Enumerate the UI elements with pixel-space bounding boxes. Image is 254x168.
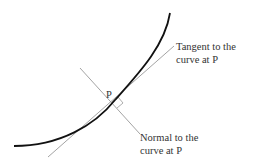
normal-label-line2: curve at P (140, 145, 182, 156)
tangent-label-line2: curve at P (176, 54, 218, 65)
normal-label-line1: Normal to the (140, 132, 199, 143)
point-label: P (106, 89, 112, 100)
tangent-normal-diagram: P Tangent to the curve at P Normal to th… (0, 0, 254, 168)
tangent-label-line1: Tangent to the (176, 41, 236, 52)
curve (14, 13, 170, 146)
